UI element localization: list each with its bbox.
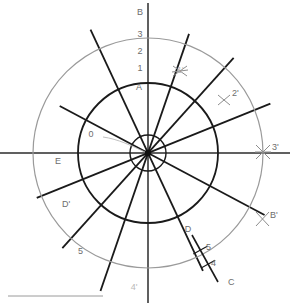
segment-tick-label-5: 5: [206, 242, 211, 252]
label-e: E: [55, 156, 61, 166]
geometric-construction-figure: 0 B 3: [0, 0, 290, 303]
axis-tick-label-2: 2: [137, 46, 142, 56]
label-3-prime: 3': [272, 142, 279, 152]
axis-bottom-label-4p: 4': [131, 282, 138, 292]
diagram-root: 0 B 3: [0, 0, 290, 303]
segment-tick-label-4: 4: [211, 258, 216, 268]
label-b-prime: B': [270, 210, 278, 220]
origin-label: 0: [88, 129, 93, 139]
axis-tick-label-1: 1: [137, 63, 142, 73]
label-2-prime: 2': [232, 88, 239, 98]
axis-point-label-a: A: [136, 82, 142, 92]
label-1-prime: 1': [177, 65, 184, 75]
segment-label-d: D: [185, 224, 192, 234]
center-origin-dot: [145, 150, 151, 156]
axis-tick-label-3: 3: [137, 29, 142, 39]
label-5-left: 5: [78, 246, 83, 256]
segment-label-c: C: [228, 277, 235, 287]
axis-top-label-b: B: [137, 7, 143, 17]
label-d-prime: D': [62, 199, 70, 209]
